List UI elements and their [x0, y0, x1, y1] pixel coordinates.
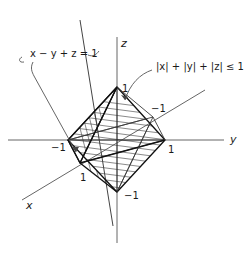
inequality-label: |x| + |y| + |z| ≤ 1	[156, 61, 244, 73]
tick-label-y-negative: −1	[51, 142, 66, 153]
plane-equation-label: x − y + z = 1	[30, 48, 98, 59]
z-axis-label: z	[120, 37, 127, 50]
octahedron-diagram: 1 −1 −1 1 1 −1 x y z x − y + z = 1 |x| +…	[0, 0, 250, 257]
y-axis-label: y	[229, 133, 237, 146]
figure-canvas: 1 −1 −1 1 1 −1 x y z x − y + z = 1 |x| +…	[0, 0, 250, 257]
tick-label-x-positive: 1	[80, 172, 86, 183]
x-axis-label: x	[25, 199, 33, 212]
tick-label-z-negative: −1	[124, 190, 139, 201]
inequality-label-leader	[125, 70, 152, 100]
tick-label-x-negative: −1	[151, 103, 166, 114]
edge-yplus-to-xplus	[80, 140, 165, 163]
leader-lines	[20, 51, 152, 152]
tick-label-y-positive: 1	[168, 144, 174, 155]
tick-label-z-positive: 1	[122, 83, 128, 94]
plane-label-hook	[20, 57, 24, 62]
